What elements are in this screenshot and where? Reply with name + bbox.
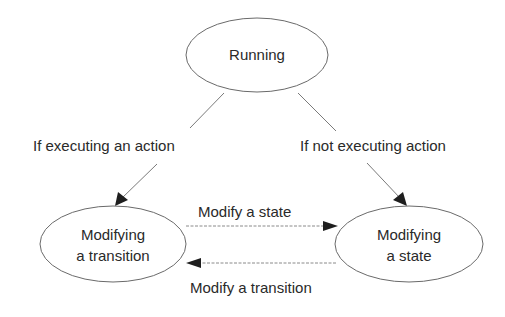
arrowhead-icon [393, 192, 407, 206]
node-label-line2: a state [386, 247, 431, 264]
edge-modify-state: Modify a state [186, 203, 338, 231]
node-modifying-state: Modifying a state [335, 206, 483, 282]
edge-label-if-executing: If executing an action [33, 137, 175, 154]
arrowhead-icon [186, 258, 201, 268]
edge-line-upper [190, 93, 224, 128]
edge-running-to-modifying-state: If not executing action [298, 93, 446, 206]
node-label-running: Running [229, 46, 285, 63]
state-diagram: If executing an action If not executing … [0, 0, 505, 317]
node-running: Running [186, 18, 328, 92]
edge-running-to-modifying-transition: If executing an action [33, 93, 224, 206]
node-modifying-transition: Modifying a transition [40, 206, 186, 282]
node-label-line1: Modifying [81, 226, 145, 243]
edge-label-modify-state: Modify a state [198, 203, 291, 220]
node-ellipse [335, 206, 483, 282]
edge-line-upper [298, 93, 336, 131]
node-label-line1: Modifying [377, 226, 441, 243]
arrowhead-icon [323, 221, 338, 231]
edge-modify-transition: Modify a transition [186, 258, 336, 296]
node-ellipse [40, 206, 186, 282]
node-label-line2: a transition [76, 247, 149, 264]
edge-line-lower [121, 164, 157, 199]
edge-line-lower [367, 163, 400, 198]
edge-label-if-not-executing: If not executing action [300, 137, 446, 154]
edge-label-modify-transition: Modify a transition [190, 279, 312, 296]
